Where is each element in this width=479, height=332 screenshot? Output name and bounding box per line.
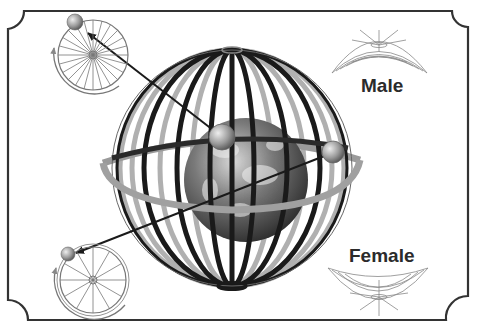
wheel-bottom-left-ball bbox=[61, 247, 75, 261]
wheel-top-left bbox=[54, 20, 128, 94]
male-label: Male bbox=[361, 75, 403, 97]
wheel-top-left-ball bbox=[67, 14, 83, 30]
planet-right bbox=[322, 141, 344, 163]
cage-front bbox=[117, 48, 347, 286]
female-label: Female bbox=[349, 245, 414, 267]
female-bowl-symbol bbox=[328, 268, 428, 316]
planet-top bbox=[209, 124, 235, 150]
male-dome-symbol bbox=[332, 30, 427, 73]
diagram-canvas bbox=[0, 0, 479, 332]
